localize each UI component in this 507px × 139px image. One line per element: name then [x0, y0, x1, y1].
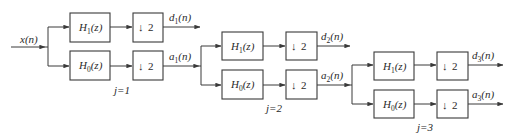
stage-label-3: j=3	[415, 121, 433, 133]
approx-output-label-2: a2(n)	[321, 69, 343, 84]
approx-output-label-1: a1(n)	[169, 50, 191, 65]
input-signal: x(n)	[11, 33, 45, 47]
downsample-arrow-icon: ↓	[138, 60, 144, 72]
input-label: x(n)	[19, 33, 38, 46]
downsample-arrow-icon: ↓	[442, 99, 448, 111]
downsample-factor: 2	[452, 99, 458, 111]
stage-label-2: j=2	[264, 102, 282, 114]
stage-2: H1(z) H0(z) ↓ 2 ↓ 2 d2(n) a2(n) j=2	[199, 30, 350, 114]
detail-output-label-1: d1(n)	[169, 11, 191, 26]
downsample-factor: 2	[301, 40, 307, 52]
downsample-arrow-icon: ↓	[291, 40, 297, 52]
approx-output-label-3: a3(n)	[472, 88, 494, 103]
stage-label-1: j=1	[112, 84, 130, 96]
downsample-arrow-icon: ↓	[442, 60, 448, 72]
downsample-factor: 2	[148, 60, 154, 72]
stage-3: H1(z) H0(z) ↓ 2 ↓ 2 d3(n) a3(n) j=3	[350, 49, 503, 133]
detail-output-label-2: d2(n)	[321, 30, 343, 45]
downsample-factor: 2	[301, 79, 307, 91]
stage-1: H1(z) H0(z) ↓ 2 ↓ 2 d1(n) a1(n) j=1	[45, 11, 200, 96]
downsample-factor: 2	[452, 60, 458, 72]
filter-bank-diagram: x(n) H1(z) H0(z) ↓ 2 ↓ 2 d1(n) a1(n) j=1	[0, 0, 507, 139]
downsample-arrow-icon: ↓	[138, 21, 144, 33]
downsample-arrow-icon: ↓	[291, 79, 297, 91]
downsample-factor: 2	[148, 21, 154, 33]
detail-output-label-3: d3(n)	[472, 49, 494, 64]
